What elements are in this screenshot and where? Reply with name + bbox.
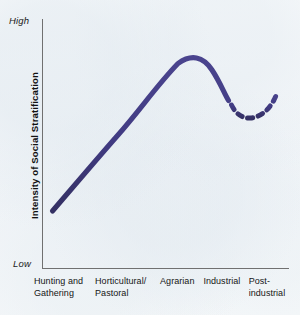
x-axis-tick-labels: Hunting and Gathering Horticultural/ Pas… bbox=[34, 276, 292, 299]
x-tick-horticultural-pastoral: Horticultural/ Pastoral bbox=[95, 276, 160, 299]
y-axis-high-label: High bbox=[9, 15, 29, 26]
x-tick-industrial: Industrial bbox=[203, 276, 248, 288]
y-axis-title: Intensity of Social Stratification bbox=[29, 51, 40, 241]
chart-figure: High Low Intensity of Social Stratificat… bbox=[0, 0, 300, 315]
x-tick-hunting-and-gathering: Hunting and Gathering bbox=[34, 276, 95, 299]
y-axis-low-label: Low bbox=[13, 258, 31, 269]
x-tick-agrarian: Agrarian bbox=[160, 276, 203, 288]
x-tick-post-industrial: Post- industrial bbox=[249, 276, 292, 299]
stratification-curve-solid bbox=[53, 58, 229, 211]
chart-plot-area bbox=[0, 0, 300, 315]
stratification-curve-dashed bbox=[232, 93, 278, 119]
